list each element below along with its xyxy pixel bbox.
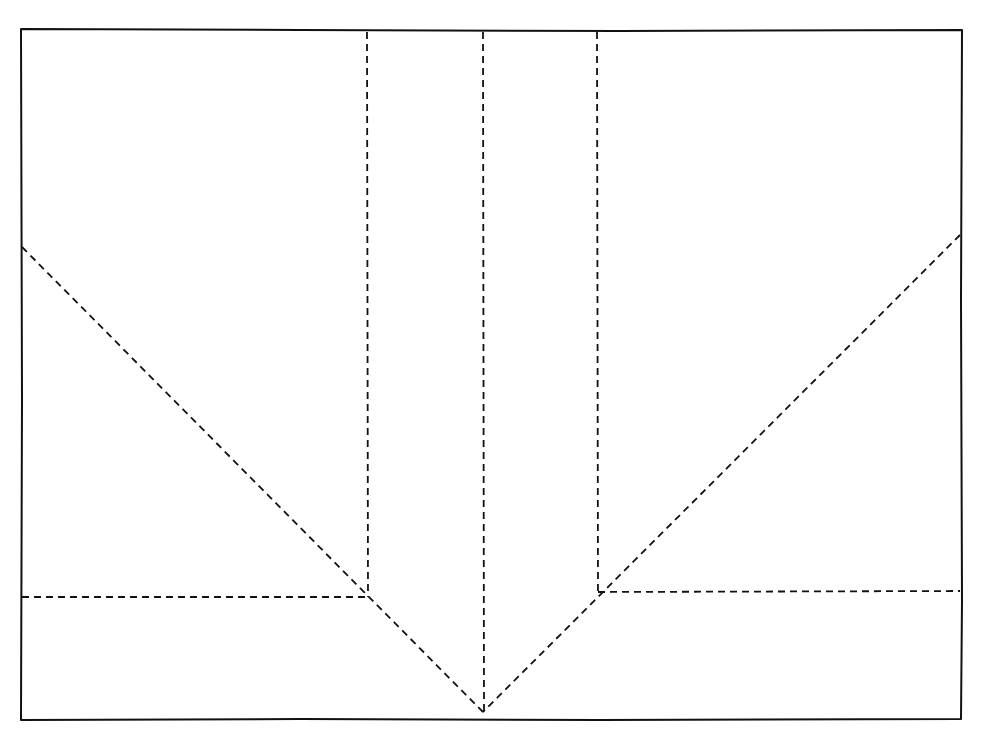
vertical-fold-left xyxy=(367,32,368,597)
vertical-fold-center xyxy=(483,32,484,711)
horizontal-fold-right xyxy=(598,591,960,592)
diagonal-fold-right xyxy=(483,235,960,712)
vertical-fold-right xyxy=(597,32,598,592)
diagonal-fold-left xyxy=(22,247,483,712)
fold-diagram xyxy=(0,0,983,737)
